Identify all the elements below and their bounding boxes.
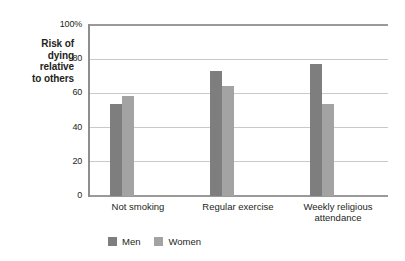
y-axis-tick-label: 60 [48,87,82,97]
y-axis-tick-label: 100% [48,19,82,29]
y-axis-tick-label: 0 [48,190,82,200]
y-axis-tick-label: 80 [48,53,82,63]
plot-bars [88,25,388,196]
x-axis-category-label: Regular exercise [188,201,288,212]
legend-label: Women [168,236,201,247]
y-axis-title-line: to others [2,73,74,85]
x-axis-category-label-line: Regular exercise [188,201,288,212]
y-axis-tick-label: 40 [48,122,82,132]
legend-item-men[interactable]: Men [108,236,140,247]
bar-women-2[interactable] [322,104,334,196]
legend-swatch-icon [154,237,163,246]
x-axis-category-label-line: Not smoking [88,201,188,212]
x-axis-category-label: Weekly religiousattendance [288,201,388,223]
legend-swatch-icon [108,237,117,246]
x-axis-category-label-line: attendance [288,212,388,223]
y-axis-title-line: Risk of [2,38,74,50]
legend-label: Men [122,236,140,247]
bar-women-0[interactable] [122,96,134,196]
legend: Men Women [108,236,201,247]
x-axis-category-label-line: Weekly religious [288,201,388,212]
legend-item-women[interactable]: Women [154,236,201,247]
y-axis-tick-label: 20 [48,156,82,166]
x-axis-category-label: Not smoking [88,201,188,212]
bar-men-2[interactable] [310,64,322,196]
bar-men-0[interactable] [110,104,122,196]
bar-men-1[interactable] [210,71,222,196]
bar-women-1[interactable] [222,86,234,196]
bar-chart: Risk of dying relative to others 0204060… [0,0,405,261]
